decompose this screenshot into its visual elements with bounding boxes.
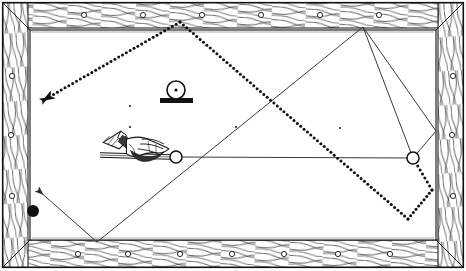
black-ball [27, 205, 39, 217]
trajectory-dot [266, 96, 269, 99]
trajectory-dot [282, 110, 285, 113]
sight-left [9, 193, 14, 198]
trajectory-dot [87, 73, 90, 76]
trajectory-dot [296, 122, 299, 125]
trajectory-dot [239, 73, 242, 76]
trajectory-dot [396, 209, 399, 212]
trajectory-dot [339, 160, 342, 163]
sight-bottom [177, 251, 182, 256]
trajectory-dot [163, 29, 166, 32]
trajectory-dot [412, 211, 415, 214]
trajectory-dot [136, 45, 139, 48]
trajectory-dot [390, 203, 393, 206]
trajectory-dot [113, 58, 116, 61]
trajectory-dot [416, 165, 419, 168]
trajectory-dot [272, 102, 275, 105]
trajectory-dot [360, 177, 363, 180]
sight-left [9, 73, 14, 78]
sight-right [450, 193, 455, 198]
trajectory-dot [185, 26, 188, 29]
trajectory-dot [106, 62, 109, 65]
trajectory-dot [380, 194, 383, 197]
trajectory-dot [276, 105, 279, 108]
trajectory-dot [426, 181, 429, 184]
trajectory-dot [309, 133, 312, 136]
sight-top [376, 12, 381, 17]
trajectory-dot [350, 168, 353, 171]
trajectory-dot [415, 208, 418, 211]
sight-top [81, 12, 86, 17]
trajectory-dot [144, 40, 147, 43]
trajectory-dot [67, 84, 70, 87]
trajectory-dot [262, 93, 265, 96]
trajectory-dot [71, 82, 74, 85]
trajectory-dot [329, 151, 332, 154]
trajectory-dot [428, 185, 431, 188]
trajectory-dot [242, 76, 245, 79]
trajectory-dot [423, 177, 426, 180]
sight-bottom [281, 251, 286, 256]
trajectory-dot [199, 38, 202, 41]
billiard-diagram-figure [0, 0, 466, 271]
trajectory-dot [252, 84, 255, 87]
trajectory-dot [219, 55, 222, 58]
trajectory-dot [306, 131, 309, 134]
sight-bottom [125, 251, 130, 256]
rail-left [3, 3, 28, 267]
trajectory-dot [419, 169, 422, 172]
trajectory-dot [343, 162, 346, 165]
sight-bottom [75, 251, 80, 256]
cloth-spot [129, 126, 131, 128]
trajectory-dot [383, 197, 386, 200]
trajectory-dot [102, 64, 105, 67]
trajectory-dot [98, 67, 101, 70]
trajectory-dot [249, 81, 252, 84]
trajectory-dot [212, 49, 215, 52]
trajectory-dot [222, 58, 225, 61]
trajectory-dot [125, 51, 128, 54]
trajectory-dot [431, 189, 434, 192]
trajectory-dot [60, 89, 63, 92]
trajectory-dot [423, 198, 426, 201]
diagram-canvas [0, 0, 466, 271]
trajectory-dot [353, 171, 356, 174]
trajectory-dot [409, 214, 412, 217]
rail-top [3, 3, 463, 28]
trajectory-dot [129, 49, 132, 52]
table-frame [3, 3, 464, 268]
cue-ball [170, 151, 182, 163]
trajectory-dot [215, 52, 218, 55]
trajectory-dot [175, 23, 178, 26]
trajectory-dot [421, 173, 424, 176]
trajectory-dot [356, 174, 359, 177]
trajectory-dot [192, 32, 195, 35]
trajectory-dot [205, 44, 208, 47]
trajectory-dot [83, 75, 86, 78]
trajectory-dot [182, 23, 185, 26]
sight-left [8, 132, 13, 137]
sight-top [258, 12, 263, 17]
trajectory-dot [94, 69, 97, 72]
trajectory-dot [189, 29, 192, 32]
trajectory-dot [259, 90, 262, 93]
trajectory-dot [52, 93, 55, 96]
trajectory-dot [370, 186, 373, 189]
trajectory-dot [56, 91, 59, 94]
trajectory-dot [117, 56, 120, 59]
sight-top [140, 12, 145, 17]
trajectory-dot [417, 205, 420, 208]
trajectory-dot [428, 192, 431, 195]
sight-right [449, 132, 454, 137]
trajectory-dot [246, 78, 249, 81]
trajectory-dot [333, 154, 336, 157]
trajectory-dot [167, 27, 170, 30]
cloth-spot [235, 126, 237, 128]
trajectory-dot [313, 136, 316, 139]
trajectory-dot [420, 201, 423, 204]
trajectory-dot [236, 70, 239, 73]
playing-surface [30, 30, 436, 240]
trajectory-dot [156, 34, 159, 37]
trajectory-dot [232, 67, 235, 70]
trajectory-dot [195, 35, 198, 38]
trajectory-dot [269, 99, 272, 102]
